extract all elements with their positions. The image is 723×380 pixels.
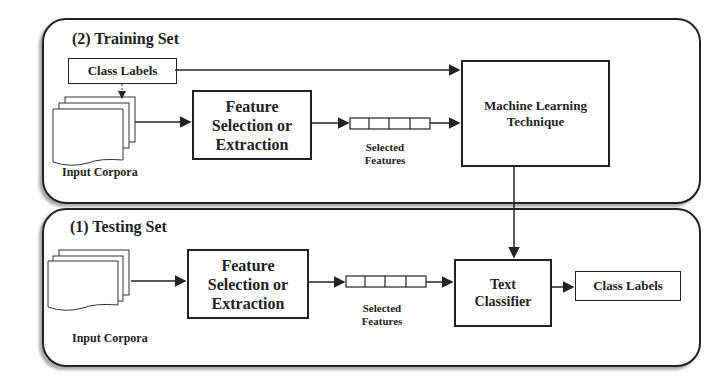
training-feature-vector-icon (350, 118, 430, 129)
testing-document-stack-icon (48, 250, 129, 310)
diagram-connectors (0, 0, 723, 380)
training-document-stack-icon (53, 97, 135, 165)
testing-feature-vector-icon (346, 276, 426, 287)
